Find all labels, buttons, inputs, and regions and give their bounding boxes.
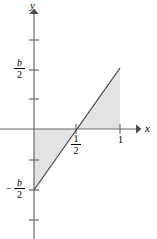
fraction-denominator: 2	[14, 188, 25, 200]
fraction-numerator: 1	[71, 134, 81, 144]
y-axis-label: y	[30, 0, 35, 11]
fraction-numerator: b	[14, 58, 25, 68]
x-axis-arrowhead	[136, 125, 142, 134]
negative-sign: −	[6, 184, 12, 194]
x-tick-label-one-half: 1 2	[71, 134, 81, 156]
graph-figure: y x b 2 − b 2 1 2 1	[0, 0, 157, 239]
y-tick-label-neg-b-over-2: b 2	[14, 178, 25, 200]
y-tick-label-b-over-2: b 2	[14, 58, 25, 80]
coordinate-plane-svg	[0, 0, 157, 239]
fraction-numerator: b	[14, 178, 25, 188]
fraction-denominator: 2	[71, 144, 81, 156]
x-axis-label: x	[145, 123, 150, 134]
x-tick-label-one: 1	[118, 135, 123, 145]
fraction-denominator: 2	[14, 68, 25, 80]
